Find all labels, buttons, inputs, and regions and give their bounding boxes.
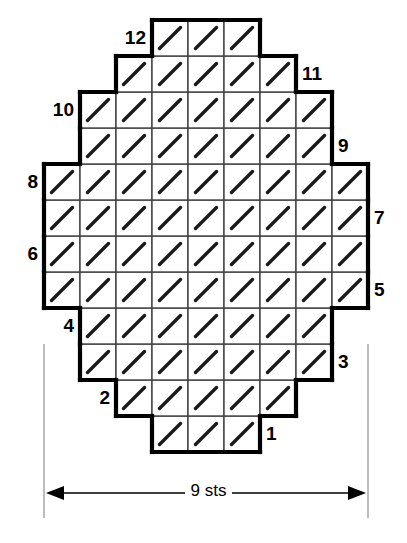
row-label-6: 6	[0, 244, 38, 263]
row-label-1: 1	[266, 424, 407, 443]
row-label-12: 12	[0, 28, 146, 47]
row-label-5: 5	[374, 280, 407, 299]
row-label-9: 9	[338, 136, 407, 155]
row-label-8: 8	[0, 172, 38, 191]
row-label-2: 2	[0, 388, 110, 407]
width-dimension-label: 9 sts	[0, 482, 407, 499]
row-label-4: 4	[0, 316, 74, 335]
row-label-3: 3	[338, 352, 407, 371]
row-label-10: 10	[0, 100, 74, 119]
row-label-11: 11	[302, 64, 407, 83]
row-label-7: 7	[374, 208, 407, 227]
knitting-chart: 12 11 10 9 8 7 6 5 4 3 2 1 9 sts	[0, 0, 407, 543]
